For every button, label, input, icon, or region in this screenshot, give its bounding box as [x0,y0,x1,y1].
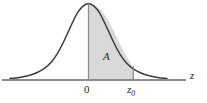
normal-distribution-figure: A 0 z0 z [0,0,207,103]
x-axis-label: z [190,70,194,81]
tick-label-z-critical: z0 [127,84,135,98]
area-label: A [103,51,110,62]
tick-label-zero: 0 [84,84,90,95]
shaded-area-region [89,4,134,81]
tick-label-z-critical-subscript: 0 [131,89,135,98]
